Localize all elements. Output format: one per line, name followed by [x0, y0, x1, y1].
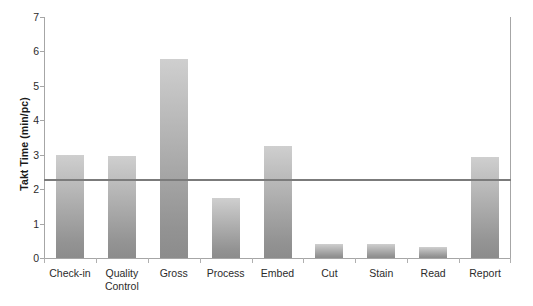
- y-tick-label: 3: [33, 149, 39, 161]
- x-axis-category-label-line: Report: [450, 267, 520, 280]
- x-tick-mark: [148, 258, 149, 263]
- x-tick-mark: [510, 258, 511, 263]
- plot-area: 01234567 Check-inQualityControlGrossProc…: [44, 17, 511, 258]
- x-axis-line: [44, 258, 511, 259]
- x-tick-mark: [44, 258, 45, 263]
- y-tick-label: 0: [33, 252, 39, 264]
- takt-time-bar-chart: Takt Time (min/pc) 01234567 Check-inQual…: [0, 0, 533, 306]
- bar: [315, 244, 343, 258]
- bar: [56, 155, 84, 258]
- y-tick-label: 4: [33, 114, 39, 126]
- x-tick-mark: [459, 258, 460, 263]
- y-axis-title: Takt Time (min/pc): [18, 74, 30, 214]
- x-tick-mark: [252, 258, 253, 263]
- x-tick-mark: [407, 258, 408, 263]
- bar: [419, 247, 447, 258]
- y-tick-label: 2: [33, 183, 39, 195]
- x-tick-mark: [303, 258, 304, 263]
- x-tick-mark: [355, 258, 356, 263]
- y-tick-label: 7: [33, 11, 39, 23]
- bar: [264, 146, 292, 258]
- x-axis-category-label: Report: [450, 267, 520, 280]
- y-tick-label: 5: [33, 80, 39, 92]
- bar: [471, 157, 499, 258]
- bar: [108, 156, 136, 258]
- bar: [160, 59, 188, 258]
- y-tick-label: 1: [33, 218, 39, 230]
- bar: [367, 244, 395, 258]
- y-tick-label: 6: [33, 45, 39, 57]
- bar: [212, 198, 240, 258]
- x-tick-mark: [96, 258, 97, 263]
- takt-reference-line: [44, 179, 511, 181]
- x-tick-mark: [200, 258, 201, 263]
- bars-container: [44, 17, 511, 258]
- x-axis-category-label-line: Control: [87, 280, 157, 293]
